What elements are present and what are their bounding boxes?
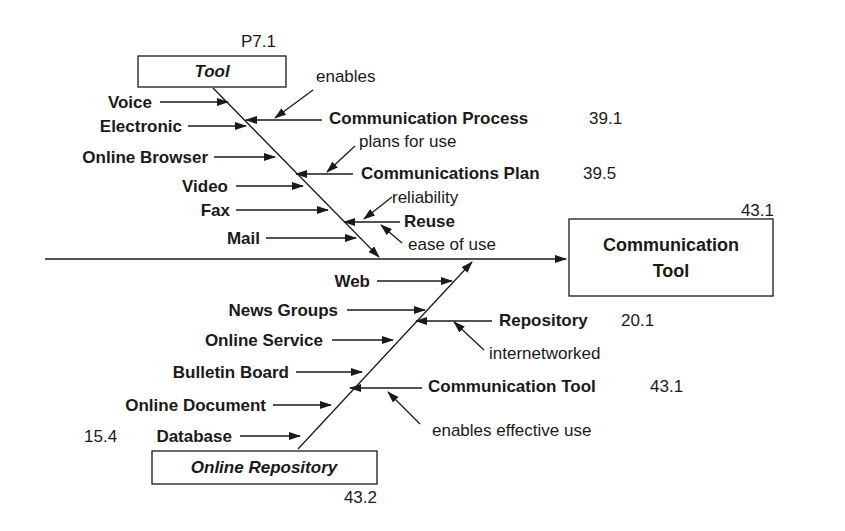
relation-reliability: reliability [392, 189, 458, 206]
online-repository-ref: 43.2 [344, 489, 377, 506]
effect-label-line2: Tool [653, 262, 690, 280]
ref-39-1: 39.1 [589, 110, 622, 127]
cause-online-browser: Online Browser [82, 149, 208, 166]
cause-web: Web [334, 273, 370, 290]
relation-ease-of-use: ease of use [408, 236, 496, 253]
cause-bulletin-board: Bulletin Board [173, 364, 289, 381]
ref-43-1-b: 43.1 [650, 378, 683, 395]
cause-mail: Mail [227, 230, 260, 247]
influence-communication-tool: Communication Tool [428, 378, 596, 395]
cause-electronic: Electronic [100, 118, 182, 135]
cause-online-service: Online Service [205, 332, 323, 349]
influence-communications-plan: Communications Plan [361, 165, 540, 182]
effect-label-line1: Communication [603, 236, 739, 254]
ref-20-1: 20.1 [621, 312, 654, 329]
tool-label: Tool [194, 63, 229, 80]
cause-database: Database [156, 428, 232, 445]
influence-repository: Repository [499, 312, 588, 329]
influence-communication-process: Communication Process [329, 110, 528, 127]
database-ref: 15.4 [84, 428, 117, 445]
influence-reuse: Reuse [404, 213, 455, 230]
online-repository-label: Online Repository [191, 459, 337, 476]
relation-plans-for-use: plans for use [359, 133, 456, 150]
effect-box [569, 219, 773, 296]
relation-enables-effective-use: enables effective use [432, 422, 591, 439]
ref-39-5: 39.5 [583, 165, 616, 182]
relation-enables: enables [316, 68, 376, 85]
cause-fax: Fax [201, 202, 230, 219]
effect-ref: 43.1 [741, 202, 774, 219]
diagram-lines [0, 0, 845, 531]
cause-voice: Voice [108, 94, 152, 111]
relation-internetworked: internetworked [489, 345, 601, 362]
cause-online-document: Online Document [125, 397, 266, 414]
cause-news-groups: News Groups [228, 302, 338, 319]
fishbone-diagram: P7.1 Tool Voice Electronic Online Browse… [0, 0, 845, 531]
cause-video: Video [182, 178, 228, 195]
tool-ref: P7.1 [241, 33, 276, 50]
